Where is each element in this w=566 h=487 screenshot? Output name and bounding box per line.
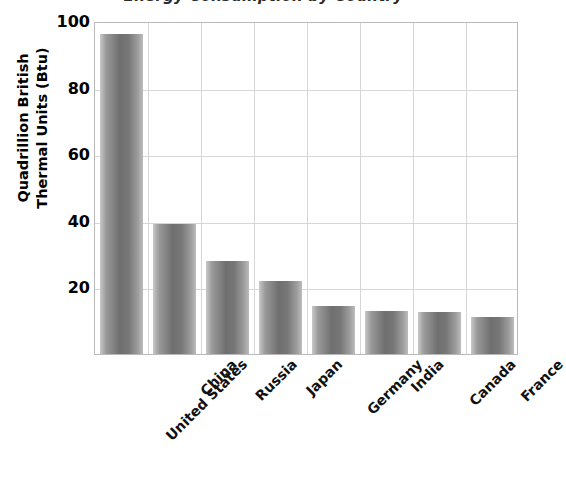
gridline-vertical — [254, 23, 255, 354]
y-axis-tick-labels: 20406080100 — [40, 0, 90, 487]
x-category-label: France — [518, 356, 566, 405]
x-category-label: Japan — [303, 356, 345, 398]
y-tick-label: 60 — [46, 147, 90, 163]
gridline-vertical — [413, 23, 414, 354]
y-axis-title-line-1: Quadrillion British — [14, 0, 33, 258]
bar — [365, 311, 408, 354]
y-tick-label: 20 — [46, 280, 90, 296]
bar — [471, 317, 514, 354]
bar — [206, 261, 249, 354]
bar — [259, 281, 302, 354]
x-category-label: Canada — [466, 356, 519, 409]
bar — [153, 224, 196, 354]
gridline-vertical — [466, 23, 467, 354]
gridline-vertical — [307, 23, 308, 354]
x-category-label: Russia — [252, 356, 300, 404]
gridline-horizontal — [95, 156, 517, 157]
y-tick-label: 80 — [46, 81, 90, 97]
bar — [100, 34, 143, 354]
bar — [418, 312, 461, 354]
gridline-vertical — [148, 23, 149, 354]
x-axis-category-labels: United StatesChinaRussiaJapanGermanyIndi… — [94, 356, 518, 487]
bar — [312, 306, 355, 354]
y-tick-label: 100 — [46, 14, 90, 30]
gridline-vertical — [360, 23, 361, 354]
y-tick-label: 40 — [46, 214, 90, 230]
gridline-vertical — [201, 23, 202, 354]
gridline-horizontal — [95, 90, 517, 91]
plot-area — [94, 22, 518, 355]
